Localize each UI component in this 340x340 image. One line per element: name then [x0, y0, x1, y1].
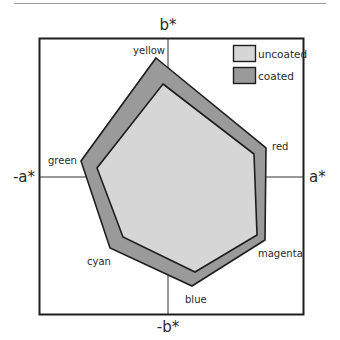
label-blue: blue — [185, 294, 207, 305]
b-positive-label: b* — [159, 16, 177, 34]
label-yellow: yellow — [133, 45, 165, 56]
label-magenta: magenta — [258, 248, 303, 259]
legend-label-coated: coated — [258, 70, 294, 82]
b-negative-label: -b* — [157, 318, 180, 336]
gamut-diagram: b* -b* -a* a* yellow red magenta blue cy… — [0, 0, 340, 340]
legend-swatch-uncoated — [234, 46, 256, 62]
legend-swatch-coated — [234, 68, 256, 84]
label-cyan: cyan — [87, 256, 111, 267]
label-green: green — [48, 155, 77, 166]
legend-label-uncoated: uncoated — [258, 48, 307, 60]
label-red: red — [272, 141, 288, 152]
a-positive-label: a* — [309, 168, 326, 186]
a-negative-label: -a* — [13, 168, 36, 186]
